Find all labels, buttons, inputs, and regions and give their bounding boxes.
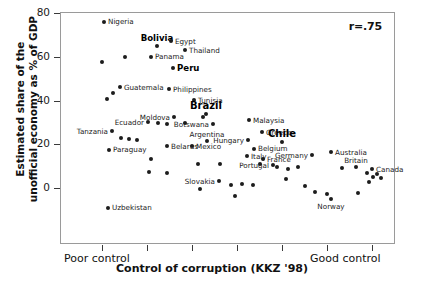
data-point: [286, 167, 290, 171]
data-point: [198, 187, 202, 191]
data-point: [111, 91, 115, 95]
data-point: [354, 165, 358, 169]
data-point: [147, 170, 151, 174]
point-label: Philippines: [173, 86, 212, 93]
x-axis-title: Control of corruption (KKZ '98): [0, 262, 424, 275]
point-label: Uzbekistan: [112, 204, 152, 211]
data-point: [167, 87, 171, 91]
data-point: [233, 194, 237, 198]
y-tick-label: 20: [20, 138, 50, 149]
data-point: [149, 55, 153, 59]
data-point: [100, 60, 104, 64]
x-tick-mark: [372, 245, 373, 251]
data-point: [110, 129, 114, 133]
data-point: [123, 55, 127, 59]
data-point: [105, 97, 109, 101]
x-tick-mark: [147, 245, 148, 251]
data-point: [102, 20, 106, 24]
correlation-annotation: r=.75: [349, 20, 382, 33]
y-axis-title-line2: unofficial economy as % of GDP: [27, 16, 39, 202]
point-label: Britain: [316, 157, 396, 164]
plot-area: r=.75 NigeriaBoliviaEgyptThailandPanamaP…: [60, 12, 395, 244]
data-point: [329, 150, 333, 154]
data-point: [356, 191, 360, 195]
data-point: [106, 206, 110, 210]
data-point: [367, 180, 371, 184]
data-point: [118, 85, 122, 89]
x-tick-mark: [282, 245, 283, 251]
data-point: [370, 167, 374, 171]
data-point: [313, 190, 317, 194]
point-label: Egypt: [175, 38, 196, 45]
data-point: [325, 192, 329, 196]
data-point: [379, 176, 383, 180]
y-tick-label: 40: [20, 95, 50, 106]
data-point: [371, 175, 375, 179]
data-point: [211, 122, 215, 126]
point-label: Slovakia: [61, 178, 215, 185]
point-label: Mexico: [196, 143, 221, 150]
point-label: Malaysia: [253, 117, 284, 124]
data-point: [172, 115, 176, 119]
x-tick-mark: [327, 245, 328, 251]
point-label: France: [267, 156, 291, 163]
point-label: Nigeria: [108, 18, 134, 25]
point-label: Peru: [177, 64, 199, 73]
data-point: [329, 197, 333, 201]
point-label: Norway: [291, 203, 371, 210]
data-point: [375, 172, 379, 176]
data-point: [165, 144, 169, 148]
data-point: [275, 165, 279, 169]
data-point: [201, 115, 205, 119]
data-point: [217, 179, 221, 183]
data-point: [171, 66, 175, 70]
point-label: Chile: [242, 129, 322, 139]
data-point: [296, 165, 300, 169]
point-label: Brazil: [166, 101, 246, 111]
point-label: Panama: [155, 53, 184, 60]
x-tick-mark: [237, 245, 238, 251]
point-label: Australia: [335, 149, 367, 156]
point-label: Tanzania: [61, 128, 108, 135]
point-label: Canada: [376, 166, 403, 173]
y-axis-title-line1: Estimated share of the: [14, 42, 26, 177]
data-point: [365, 171, 369, 175]
point-label: Portugal: [61, 162, 269, 169]
point-label: Guatemala: [124, 84, 164, 91]
data-point: [251, 183, 255, 187]
y-tick-label: 60: [20, 51, 50, 62]
data-point: [247, 118, 251, 122]
data-point: [165, 171, 169, 175]
x-tick-mark: [102, 245, 103, 251]
data-point: [303, 184, 307, 188]
data-point: [340, 166, 344, 170]
data-point: [310, 153, 314, 157]
data-point: [229, 183, 233, 187]
data-point: [155, 44, 159, 48]
data-point: [240, 182, 244, 186]
x-tick-mark: [192, 245, 193, 251]
chart-page: Estimated share of the unofficial econom…: [0, 0, 424, 286]
data-point: [252, 147, 256, 151]
point-label: Belarus: [171, 143, 198, 150]
point-label: Thailand: [189, 47, 220, 54]
data-point: [284, 177, 288, 181]
y-tick-label: 80: [20, 7, 50, 18]
y-tick-label: 0: [20, 182, 50, 193]
